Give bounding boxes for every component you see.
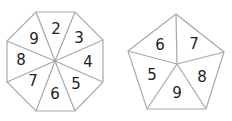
pentagon-section-label: 7 bbox=[189, 35, 199, 53]
octagon-section-label: 2 bbox=[51, 20, 61, 38]
pentagon-section-label: 6 bbox=[155, 36, 165, 54]
octagon-spinner: 2 3 4 5 6 7 8 9 bbox=[7, 12, 103, 111]
octagon-section-label: 5 bbox=[71, 75, 81, 93]
pentagon-section-label: 8 bbox=[197, 68, 207, 86]
octagon-section-label: 4 bbox=[83, 53, 93, 71]
pentagon-section-label: 5 bbox=[147, 66, 157, 84]
octagon-section-label: 3 bbox=[74, 29, 84, 47]
pentagon-section-label: 9 bbox=[172, 84, 182, 102]
octagon-section-label: 9 bbox=[29, 30, 39, 48]
octagon-section-label: 6 bbox=[50, 85, 60, 103]
octagon-section-label: 8 bbox=[16, 51, 26, 69]
octagon-section-label: 7 bbox=[28, 72, 38, 90]
pentagon-spinner: 7 8 9 5 6 bbox=[128, 14, 224, 109]
spinner-diagram: 2 3 4 5 6 7 8 9 7 8 9 5 6 bbox=[0, 0, 232, 121]
